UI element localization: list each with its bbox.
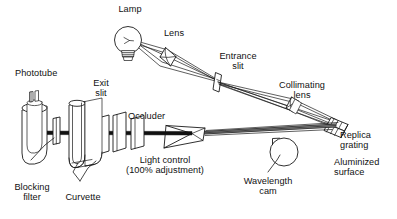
lamp-bulb [115,27,142,61]
beam-grating-to-occluder [204,123,338,136]
label-phototube: Phototube [15,68,77,78]
optical-diagram: Lamp Lens Entrance slit Collimating lens… [0,0,397,219]
lens [160,48,176,67]
label-occluder: Occluder [128,111,188,121]
label-aluminized-surface: Aluminized surface [334,157,396,177]
diagram-canvas [0,0,397,219]
label-collimating-lens: Collimating lens [264,80,340,100]
label-blocking-filter: Blocking filter [6,182,58,202]
label-replica-grating: Replica grating [340,130,396,150]
label-entrance-slit: Entrance slit [205,51,271,71]
occluder [164,126,205,149]
wavelength-cam [270,138,298,166]
label-wavelength-cam: Wavelength cam [232,176,304,196]
blocking-filter [53,117,60,145]
label-exit-slit: Exit slit [85,78,117,98]
label-curvette: Curvette [60,192,106,202]
label-light-control: Light control (100% adjustment) [113,155,217,175]
curvette [69,98,102,168]
phototube [22,91,47,165]
label-lamp: Lamp [106,4,154,14]
label-lens: Lens [152,28,196,38]
